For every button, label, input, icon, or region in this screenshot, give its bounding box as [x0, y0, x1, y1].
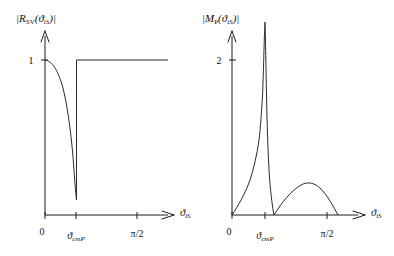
left-plot-panel: |RSV(ϑiS)| 1 0 ϑcmP π/2 ϑiS	[0, 0, 197, 256]
left-y-ticklabel-1: 1	[29, 55, 34, 66]
left-y-axis-label: |RSV(ϑiS)|	[16, 12, 56, 26]
left-x-ticklabel-pi-half: π/2	[131, 228, 144, 239]
right-x-ticklabel-cmp: ϑcmP	[256, 230, 274, 243]
figure-container: |RSV(ϑiS)| 1 0 ϑcmP π/2 ϑiS	[0, 0, 394, 256]
right-x-ticklabel-0: 0	[227, 226, 232, 237]
right-x-ticklabel-pi-half: π/2	[321, 228, 334, 239]
right-curve-branch-2	[265, 22, 274, 215]
right-y-axis-label: |MP(ϑiS)|	[202, 12, 239, 26]
right-plot-svg: |MP(ϑiS)| 2 0 ϑcmP π/2 ϑiS	[190, 0, 394, 256]
right-curve-branch-1	[232, 22, 265, 215]
left-curve-branch-1	[45, 60, 77, 200]
right-y-ticklabel-2: 2	[217, 55, 222, 66]
left-x-ticklabel-cmp: ϑcmP	[67, 230, 85, 243]
left-plot-svg: |RSV(ϑiS)| 1 0 ϑcmP π/2 ϑiS	[0, 0, 197, 256]
right-plot-panel: |MP(ϑiS)| 2 0 ϑcmP π/2 ϑiS	[190, 0, 394, 256]
right-x-axis-label: ϑiS	[371, 207, 382, 220]
left-x-ticklabel-0: 0	[40, 226, 45, 237]
right-curve-branch-3	[274, 183, 338, 215]
